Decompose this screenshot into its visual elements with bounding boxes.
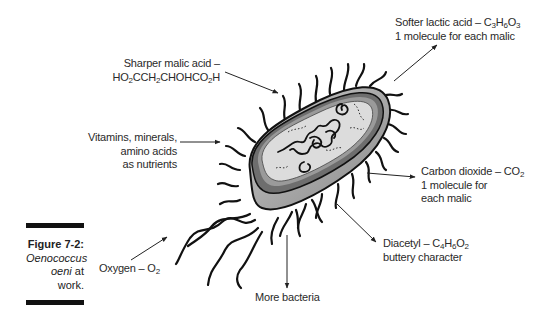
malic-formula: HO2CCH2CHOHCO2H xyxy=(110,71,220,85)
nutrients-line1: Vitamins, minerals, xyxy=(70,131,177,145)
caption-line3: work. xyxy=(26,279,84,293)
caption-line2: oeni at xyxy=(26,265,84,279)
figure-number: Figure 7-2: xyxy=(26,238,84,252)
label-oxygen: Oxygen – O2 xyxy=(99,262,160,276)
label-malic-acid: Sharper malic acid – HO2CCH2CHOHCO2H xyxy=(110,57,220,84)
lactic-line1: Softer lactic acid – C3H6O3 xyxy=(395,16,520,30)
diacetyl-line2: buttery character xyxy=(383,251,469,265)
arrow-co2-out xyxy=(367,173,415,177)
co2-line3: each malic xyxy=(421,192,524,206)
arrow-malic-in xyxy=(225,72,278,93)
label-nutrients: Vitamins, minerals, amino acids as nutri… xyxy=(70,131,177,172)
bacterium-body xyxy=(250,87,391,209)
nutrients-line2: amino acids xyxy=(70,145,177,159)
caption-rule-top xyxy=(26,223,84,228)
diacetyl-line1: Diacetyl – C4H6O2 xyxy=(383,237,469,251)
nutrients-line3: as nutrients xyxy=(70,158,177,172)
caption-rule-bottom xyxy=(26,300,84,305)
figure-caption: Figure 7-2: Oenococcus oeni at work. xyxy=(26,238,84,292)
malic-line1: Sharper malic acid – xyxy=(110,57,220,71)
label-more-bacteria: More bacteria xyxy=(255,291,320,305)
co2-line2: 1 molecule for xyxy=(421,179,524,193)
arrow-lactic-out xyxy=(394,45,437,81)
lactic-line2: 1 molecule for each malic xyxy=(395,30,520,44)
arrow-oxygen-in xyxy=(131,237,167,260)
arrow-diacetyl-out xyxy=(337,204,376,242)
label-lactic-acid: Softer lactic acid – C3H6O3 1 molecule f… xyxy=(395,16,520,43)
caption-line1: Oenococcus xyxy=(26,252,84,266)
co2-line1: Carbon dioxide – CO2 xyxy=(421,165,524,179)
label-diacetyl: Diacetyl – C4H6O2 buttery character xyxy=(383,237,469,264)
label-carbon-dioxide: Carbon dioxide – CO2 1 molecule for each… xyxy=(421,165,524,206)
